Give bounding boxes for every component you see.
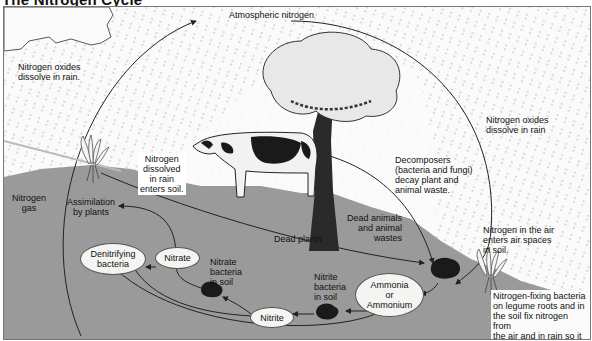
- label-line: Nitrogen: [140, 154, 184, 164]
- label-line: in soil: [210, 277, 242, 287]
- label-assimilation: Assimilation by plants: [67, 197, 115, 217]
- node-label: Nitrate: [164, 253, 191, 263]
- label-line: the soil fix nitrogen from: [493, 311, 588, 331]
- label-line: Nitrite: [314, 272, 346, 282]
- label-line: Nitrate: [210, 257, 242, 267]
- label-line: by plants: [67, 207, 115, 217]
- label-line: dissolve in rain: [486, 125, 549, 135]
- label-nitrogen-gas: Nitrogen gas: [12, 193, 46, 213]
- node-label: or: [367, 290, 413, 300]
- label-nox-right: Nitrogen oxides dissolve in rain: [486, 115, 549, 135]
- label-line: Dead animals: [347, 213, 402, 223]
- label-line: the air and in rain so it: [493, 331, 588, 340]
- label-nitrogen-dissolved: Nitrogen dissolved in rain enters soil.: [138, 153, 186, 195]
- label-line: enters air spaces: [483, 235, 554, 245]
- label-line: decay plant and: [395, 175, 473, 185]
- label-line: in soil: [314, 292, 346, 302]
- node-label: Ammonium: [367, 300, 413, 310]
- label-line: bacteria: [314, 282, 346, 292]
- label-nox-left: Nitrogen oxides dissolve in rain.: [18, 62, 81, 82]
- label-dead-plants: Dead plants: [274, 234, 322, 244]
- label-line: enters soil.: [140, 184, 184, 194]
- node-nitrate: Nitrate: [155, 247, 200, 269]
- node-label: Denitrifying: [90, 249, 135, 259]
- label-line: dissolved: [140, 164, 184, 174]
- label-line: in soil.: [483, 245, 554, 255]
- label-line: Nitrogen in the air: [483, 225, 554, 235]
- node-ammonia-ammonium: Ammonia or Ammonium: [355, 273, 424, 317]
- node-label: bacteria: [90, 259, 135, 269]
- label-line: Nitrogen oxides: [18, 62, 81, 72]
- label-line: animal waste.: [395, 185, 473, 195]
- label-line: and animal: [347, 223, 402, 233]
- label-line: Nitrogen: [12, 193, 46, 203]
- label-decomposers: Decomposers (bacteria and fungi) decay p…: [395, 155, 473, 195]
- node-nitrite: Nitrite: [250, 307, 294, 328]
- label-line: Nitrogen-fixing bacteria: [493, 291, 588, 301]
- label-line: dissolve in rain.: [18, 72, 81, 82]
- label-nitrogen-fixing: Nitrogen-fixing bacteria on legume roots…: [491, 290, 590, 340]
- node-label: Ammonia: [367, 280, 413, 290]
- label-nitrogen-in-air: Nitrogen in the air enters air spaces in…: [483, 225, 554, 255]
- node-label: Nitrite: [260, 313, 284, 323]
- label-line: gas: [12, 203, 46, 213]
- label-nitrate-bacteria: Nitrate bacteria in soil: [210, 257, 242, 287]
- label-line: Nitrogen oxides: [486, 115, 549, 125]
- label-dead-animals: Dead animals and animal wastes: [347, 213, 402, 243]
- label-line: on legume roots and in: [493, 301, 588, 311]
- label-line: wastes: [347, 233, 402, 243]
- label-line: bacteria: [210, 267, 242, 277]
- label-nitrite-bacteria: Nitrite bacteria in soil: [314, 272, 346, 302]
- label-line: Assimilation: [67, 197, 115, 207]
- node-denitrifying-bacteria: Denitrifying bacteria: [80, 243, 146, 275]
- label-line: in rain: [140, 174, 184, 184]
- label-line: (bacteria and fungi): [395, 165, 473, 175]
- diagram-frame: Atmospheric nitrogen Nitrogen oxides dis…: [3, 6, 591, 340]
- bacteria-blob-decomposer: [431, 258, 460, 279]
- label-atmospheric-nitrogen: Atmospheric nitrogen: [229, 10, 314, 20]
- label-line: Decomposers: [395, 155, 473, 165]
